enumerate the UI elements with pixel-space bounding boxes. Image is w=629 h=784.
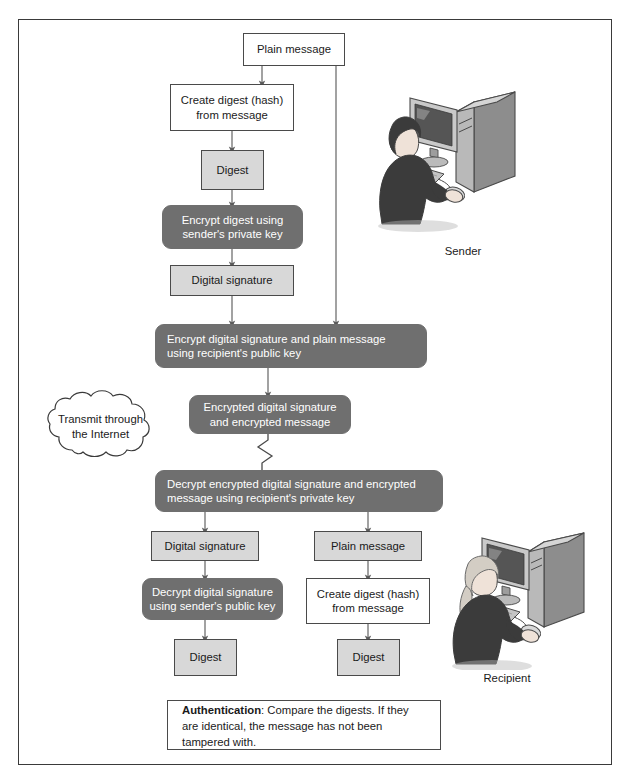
sender-at-computer-illustration xyxy=(378,84,568,234)
node-encrypt-digest: Encrypt digest using sender's private ke… xyxy=(162,205,303,249)
node-decrypt-digital-signature: Decrypt digital signature using sender's… xyxy=(142,578,283,620)
node-digital-signature-bottom: Digital signature xyxy=(151,531,259,561)
node-create-digest-top: Create digest (hash) from message xyxy=(170,84,294,131)
node-digest-right-bottom: Digest xyxy=(337,639,400,676)
cloud-label: Transmit through the Internet xyxy=(48,388,153,463)
node-plain-message-top: Plain message xyxy=(243,33,345,66)
cloud-label-wrap: Transmit through the Internet xyxy=(48,388,153,463)
node-digest-left-bottom: Digest xyxy=(174,639,237,676)
node-create-digest-bottom: Create digest (hash) from message xyxy=(306,578,430,624)
node-encrypted-signature-message: Encrypted digital signature and encrypte… xyxy=(189,395,351,434)
node-encrypt-signature-and-message: Encrypt digital signature and plain mess… xyxy=(155,324,427,368)
recipient-at-computer-illustration xyxy=(440,530,610,670)
node-digest-top: Digest xyxy=(201,150,264,190)
authentication-label: Authentication xyxy=(182,704,261,716)
node-plain-message-bottom: Plain message xyxy=(314,531,422,561)
authentication-note: Authentication: Compare the digests. If … xyxy=(167,700,441,750)
diagram-root: Plain message Create digest (hash) from … xyxy=(0,0,629,784)
node-digital-signature-top: Digital signature xyxy=(170,265,294,296)
recipient-caption: Recipient xyxy=(452,672,562,684)
node-decrypt-encrypted: Decrypt encrypted digital signature and … xyxy=(155,470,443,512)
sender-caption: Sender xyxy=(408,245,518,257)
